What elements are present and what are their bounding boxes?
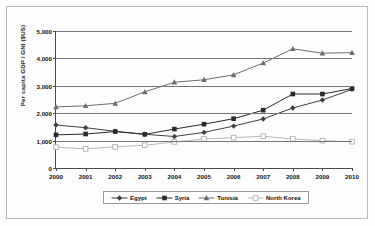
legend-marker-triangle-icon (198, 194, 215, 202)
x-axis-tick-mark (174, 168, 175, 171)
x-axis-tick-mark (293, 168, 294, 171)
data-point (113, 129, 118, 134)
y-axis-title: Per capita GDP / GNI ($US) (19, 6, 26, 126)
data-point (54, 133, 59, 138)
series-layer (56, 31, 352, 168)
x-axis-tick-label: 2003 (138, 173, 152, 180)
legend-label: North Korea (266, 195, 301, 201)
x-axis-tick-label: 2010 (345, 173, 359, 180)
x-axis-tick-mark (56, 168, 57, 171)
data-point (172, 134, 177, 139)
y-axis-tick-label: 5,000 (37, 28, 52, 35)
x-axis-tick-mark (115, 168, 116, 171)
legend-label: Syria (175, 195, 190, 201)
gridline (56, 58, 352, 59)
x-axis-tick-mark (234, 168, 235, 171)
data-point (231, 123, 236, 128)
legend-label: Egypt (130, 195, 147, 201)
data-point (54, 145, 59, 150)
data-point (53, 122, 58, 127)
scan-artifact: · · (17, 0, 43, 5)
x-axis-tick-mark (86, 168, 87, 171)
data-point (83, 147, 88, 152)
data-point (320, 92, 325, 97)
y-axis-tick-mark (53, 58, 56, 59)
x-axis-tick-label: 2001 (79, 173, 93, 180)
data-point (290, 46, 296, 51)
x-axis-tick-label: 2005 (197, 173, 211, 180)
legend-label: Tunisia (217, 195, 238, 201)
x-axis-tick-label: 2000 (49, 173, 63, 180)
series-tunisia (53, 46, 355, 109)
plot-area: 01,0002,0003,0004,0005,00020002001200220… (55, 31, 352, 169)
y-axis-tick-label: 1,000 (37, 137, 52, 144)
series-line (56, 89, 352, 135)
data-point (350, 86, 355, 91)
gridline (56, 31, 352, 32)
data-point (202, 122, 207, 127)
data-point (320, 97, 325, 102)
y-axis-tick-mark (53, 31, 56, 32)
x-axis-tick-label: 2008 (286, 173, 300, 180)
legend-item-egypt[interactable]: Egypt (111, 194, 147, 202)
data-point (261, 116, 266, 121)
y-axis-tick-mark (53, 113, 56, 114)
x-axis-tick-mark (204, 168, 205, 171)
data-point (261, 134, 266, 139)
data-point (201, 130, 206, 135)
gridline (56, 141, 352, 142)
x-axis-tick-mark (263, 168, 264, 171)
x-axis-tick-mark (322, 168, 323, 171)
x-axis-tick-label: 2004 (168, 173, 182, 180)
legend-item-north-korea[interactable]: North Korea (247, 194, 301, 202)
legend-marker-diamond-icon (111, 194, 128, 202)
plot-wrapper: Per capita GDP / GNI ($US) 01,0002,0003,… (7, 7, 367, 218)
x-axis-tick-label: 2009 (316, 173, 330, 180)
x-axis-tick-mark (352, 168, 353, 171)
x-axis-tick-label: 2002 (108, 173, 122, 180)
chart-screenshot: · · Per capita GDP / GNI ($US) 01,0002,0… (0, 0, 375, 226)
chart-legend: EgyptSyriaTunisiaNorth Korea (103, 191, 309, 204)
y-axis-tick-label: 2,000 (37, 110, 52, 117)
data-point (291, 92, 296, 97)
x-axis-tick-mark (145, 168, 146, 171)
data-point (172, 127, 177, 132)
legend-marker-open-square-icon (247, 194, 264, 202)
data-point (143, 143, 148, 148)
legend-item-syria[interactable]: Syria (156, 194, 190, 202)
legend-marker-square-icon (156, 194, 173, 202)
gridline (56, 86, 352, 87)
chart-frame: Per capita GDP / GNI ($US) 01,0002,0003,… (6, 6, 368, 219)
data-point (260, 60, 266, 65)
y-axis-tick-mark (53, 141, 56, 142)
y-axis-tick-label: 3,000 (37, 82, 52, 89)
data-point (83, 125, 88, 130)
x-axis-tick-label: 2006 (227, 173, 241, 180)
y-axis-tick-label: 0 (49, 165, 52, 172)
data-point (231, 135, 236, 140)
y-axis-tick-label: 4,000 (37, 55, 52, 62)
y-axis-tick-mark (53, 86, 56, 87)
data-point (143, 132, 148, 137)
data-point (231, 116, 236, 121)
x-axis-tick-label: 2007 (256, 173, 270, 180)
data-point (83, 132, 88, 137)
gridline (56, 113, 352, 114)
series-north-korea (54, 134, 355, 151)
data-point (290, 105, 295, 110)
data-point (261, 108, 266, 113)
legend-item-tunisia[interactable]: Tunisia (198, 194, 238, 202)
data-point (113, 145, 118, 150)
